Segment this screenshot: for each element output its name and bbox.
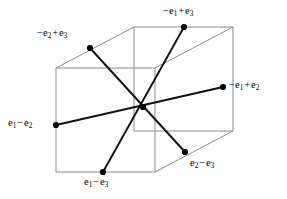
label-operator: + — [51, 27, 59, 38]
label-operator: + — [177, 5, 185, 16]
label-sub-2: 3 — [64, 32, 68, 40]
label-sub-2: 3 — [190, 10, 194, 18]
cube-front-face — [56, 68, 155, 172]
root-axes — [56, 27, 223, 172]
vertex-label-e2-minus-e3: e2−e3 — [190, 158, 214, 169]
vertex-dot-e1-minus-e2 — [53, 122, 59, 128]
vertex-label-e1-minus-e2: e1−e2 — [8, 118, 32, 129]
label-sub-1: 1 — [13, 122, 17, 130]
vertex-label-minus-e1-plus-e3: −e1+e3 — [163, 6, 193, 17]
label-sub-2: 3 — [211, 162, 215, 170]
label-sub-1: 1 — [240, 84, 244, 92]
label-sub-1: 1 — [174, 10, 178, 18]
cube-edge-depth-top-left — [56, 27, 134, 68]
label-operator: − — [92, 176, 100, 187]
root-system-figure: −e1+e3 −e2+e3 −e1+e2 e1−e2 e1−e3 e2−e3 — [0, 0, 287, 199]
label-sub-1: 2 — [48, 32, 52, 40]
label-sub-2: 3 — [105, 181, 109, 189]
vertex-label-e1-minus-e3: e1−e3 — [84, 177, 108, 188]
label-sub-2: 2 — [256, 84, 260, 92]
vertex-dot-minus-e1-plus-e3 — [181, 24, 187, 30]
label-operator: + — [243, 79, 251, 90]
center-node — [140, 104, 146, 110]
root-axis-e2-minus-e3 — [90, 48, 185, 152]
cube-edge-depth-top-right — [155, 27, 233, 68]
vertex-dot-minus-e1-plus-e2 — [220, 84, 226, 90]
vertex-dot-minus-e2-plus-e3 — [87, 45, 93, 51]
label-sub-1: 1 — [89, 181, 93, 189]
vertex-dot-e2-minus-e3 — [182, 149, 188, 155]
cube-back-face — [134, 27, 233, 131]
label-sub-1: 2 — [195, 162, 199, 170]
vertex-label-minus-e1-plus-e2: −e1+e2 — [229, 80, 259, 91]
label-sub-2: 2 — [29, 122, 33, 130]
center-dot — [140, 104, 146, 110]
label-operator: − — [198, 157, 206, 168]
label-operator: − — [16, 117, 24, 128]
vertex-dot-e1-minus-e3 — [100, 169, 106, 175]
root-vertex-dots — [53, 24, 226, 175]
vertex-label-minus-e2-plus-e3: −e2+e3 — [37, 28, 67, 39]
